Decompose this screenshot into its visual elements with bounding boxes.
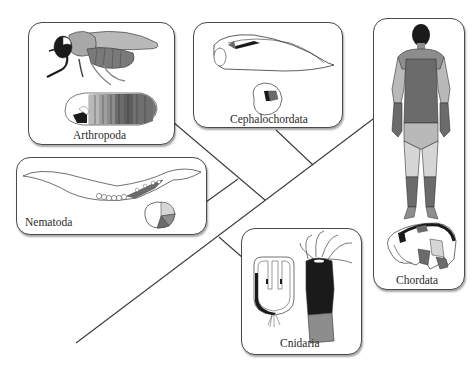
human-illustration [374,19,466,291]
hydra-polyp [300,231,352,343]
label-cephalochordata: Cephalochordata [230,113,308,125]
label-arthropoda: Arthropoda [73,129,126,141]
panel-nematoda: Nematoda [16,157,207,235]
label-cnidaria: Cnidaria [280,337,320,349]
cnidarian-cross-section [254,257,294,327]
label-chordata: Chordata [396,274,438,286]
label-nematoda: Nematoda [25,216,72,228]
phylogeny-diagram: Arthropoda Cephalochordata [0,0,476,372]
amphioxus-embryo [253,83,282,115]
fly-illustration [29,23,176,146]
fly-embryo [65,93,157,125]
vertebrate-embryo [387,223,456,269]
branch-cnidaria [219,237,243,258]
branch-cephalochordata [276,130,313,165]
panel-chordata: Chordata [373,18,465,290]
branch-nematoda [206,179,238,202]
nematode-embryo [145,202,175,228]
panel-arthropoda: Arthropoda [28,22,175,145]
panel-cnidaria: Cnidaria [241,228,362,355]
panel-cephalochordata: Cephalochordata [193,22,343,128]
